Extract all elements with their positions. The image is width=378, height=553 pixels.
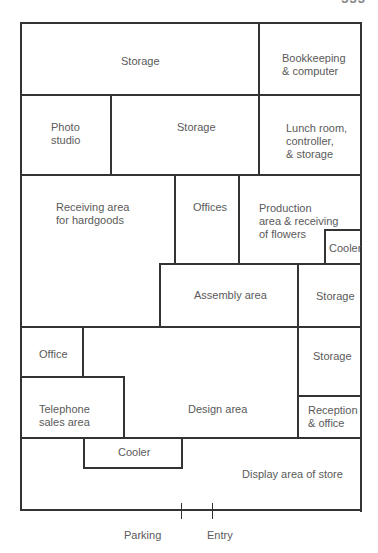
floor-plan-diagram: 333 Storage Bookkeeping & computer Photo… xyxy=(0,0,378,553)
wall-v-storage-right xyxy=(297,263,299,439)
room-lunch-room: Lunch room, controller, & storage xyxy=(286,122,347,161)
wall-v-bookkeeping xyxy=(258,22,260,175)
wall-outer-top xyxy=(21,22,362,24)
wall-h-row1 xyxy=(20,94,362,96)
wall-h-cooler2-bottom xyxy=(83,467,183,469)
room-offices: Offices xyxy=(193,201,227,214)
room-bookkeeping: Bookkeeping & computer xyxy=(282,52,346,78)
wall-v-telephone-right xyxy=(123,376,125,438)
wall-v-office xyxy=(82,326,84,377)
room-storage-middle: Storage xyxy=(177,121,216,134)
room-cooler-display: Cooler xyxy=(118,446,150,459)
room-receiving-hardgoods: Receiving area for hardgoods xyxy=(56,201,129,227)
room-cooler-production: Cooler xyxy=(329,242,361,255)
room-display-area: Display area of store xyxy=(242,468,343,481)
wall-v-assembly-left xyxy=(159,263,161,328)
wall-v-cooler2-left xyxy=(83,437,85,469)
parking-label: Parking xyxy=(124,529,161,541)
room-assembly-area: Assembly area xyxy=(194,289,267,302)
room-storage-right-1: Storage xyxy=(316,290,355,303)
room-reception: Reception & office xyxy=(308,404,358,430)
room-office: Office xyxy=(39,348,68,361)
room-telephone-sales: Telephone sales area xyxy=(39,403,90,429)
wall-h-telephone-top xyxy=(20,376,125,378)
wall-v-photo xyxy=(110,94,112,175)
wall-v-offices-left xyxy=(174,174,176,264)
room-photo-studio: Photo studio xyxy=(51,121,80,147)
page-number: 333 xyxy=(341,0,366,6)
entry-label: Entry xyxy=(207,529,233,541)
wall-outer-bottom xyxy=(20,509,362,511)
entry-tick-left xyxy=(181,503,182,519)
wall-v-cooler2-right xyxy=(181,437,183,469)
room-storage-right-2: Storage xyxy=(313,350,352,363)
wall-v-offices-right xyxy=(238,174,240,264)
room-production-area: Production area & receiving of flowers xyxy=(259,202,339,241)
wall-h-row2 xyxy=(20,174,362,176)
wall-h-reception-top xyxy=(297,395,362,397)
room-design-area: Design area xyxy=(188,403,247,416)
wall-h-assembly-top xyxy=(159,263,362,265)
room-storage-top: Storage xyxy=(121,55,160,68)
wall-h-row4 xyxy=(20,326,362,328)
wall-h-row5 xyxy=(20,437,362,439)
entry-tick-right xyxy=(212,503,213,519)
